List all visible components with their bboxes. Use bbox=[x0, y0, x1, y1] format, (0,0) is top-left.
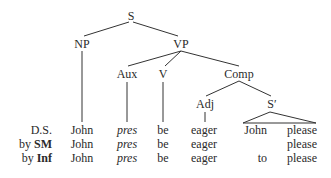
node-v: V bbox=[159, 68, 168, 80]
word-pres: pres bbox=[117, 124, 137, 136]
word-eager: eager bbox=[191, 152, 217, 164]
word-john: John bbox=[71, 124, 94, 136]
word-embedded-subject: John bbox=[244, 124, 267, 136]
row-label-inf: by Inf bbox=[22, 152, 52, 164]
node-np: NP bbox=[74, 38, 89, 50]
node-vp: VP bbox=[173, 38, 188, 50]
node-aux: Aux bbox=[117, 68, 138, 80]
word-please: please bbox=[287, 124, 317, 136]
word-john: John bbox=[71, 138, 94, 150]
node-comp: Comp bbox=[224, 68, 253, 80]
word-john: John bbox=[71, 152, 94, 164]
node-adj: Adj bbox=[196, 98, 214, 110]
word-be: be bbox=[157, 138, 168, 150]
node-s: S bbox=[128, 10, 135, 22]
node-s-prime: S′ bbox=[267, 98, 276, 110]
word-eager: eager bbox=[191, 138, 217, 150]
word-pres: pres bbox=[117, 138, 137, 150]
word-eager: eager bbox=[191, 124, 217, 136]
row-label-sm: by SM bbox=[19, 138, 52, 150]
word-be: be bbox=[157, 152, 168, 164]
word-please: please bbox=[287, 152, 317, 164]
word-please: please bbox=[287, 138, 317, 150]
row-label-ds: D.S. bbox=[31, 124, 52, 136]
word-pres: pres bbox=[117, 152, 137, 164]
word-be: be bbox=[157, 124, 168, 136]
word-to: to bbox=[258, 152, 267, 164]
